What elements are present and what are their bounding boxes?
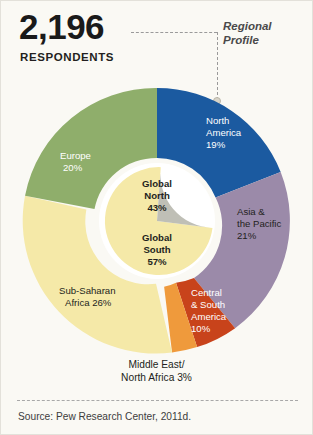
respondents-count: 2,196 [19, 9, 104, 44]
label-north-america-line2: America [206, 127, 242, 138]
label-global-north-line3: 43% [147, 202, 167, 213]
label-central-south-america-line3: America [191, 311, 227, 322]
label-asia-pacific-line3: 21% [237, 230, 257, 241]
callout-title-line2: Profile [223, 33, 272, 47]
label-middle-east-north-africa-line1: Middle East/ [1, 358, 312, 371]
label-europe-line1: Europe [60, 150, 91, 161]
label-sub-saharan-africa-line2: Africa 26% [65, 297, 112, 308]
label-north-america-line1: North [206, 115, 229, 126]
label-asia-pacific-line2: the Pacific [237, 218, 281, 229]
label-asia-pacific-line1: Asia & [237, 206, 265, 217]
label-global-south-line1: Global [142, 232, 172, 243]
label-middle-east-north-africa: Middle East/ North Africa 3% [1, 358, 312, 385]
label-europe-line2: 20% [63, 162, 83, 173]
callout-title: Regional Profile [223, 19, 272, 48]
infographic-panel: 2,196 RESPONDENTS Regional Profile [0, 0, 313, 435]
callout-leader-line-horizontal [131, 32, 217, 33]
donut-chart-svg: North America 19% Asia & the Pacific 21%… [11, 85, 304, 357]
label-north-america-line3: 19% [206, 139, 226, 150]
source-note: Source: Pew Research Center, 2011d. [18, 411, 191, 422]
label-global-north-line1: Global [142, 178, 172, 189]
label-sub-saharan-africa-line1: Sub-Saharan [59, 285, 116, 296]
callout-title-line1: Regional [223, 19, 272, 33]
label-central-south-america-line1: Central [191, 287, 222, 298]
label-central-south-america-line4: 10% [191, 323, 211, 334]
label-central-south-america-line2: & South [191, 299, 225, 310]
respondents-label: RESPONDENTS [20, 51, 114, 63]
footer-divider [17, 400, 298, 401]
label-global-south-line2: South [143, 244, 170, 255]
label-middle-east-north-africa-line2: North Africa 3% [1, 371, 312, 384]
label-global-south-line3: 57% [147, 256, 167, 267]
label-global-north-line2: North [144, 190, 170, 201]
regional-profile-donut-chart: North America 19% Asia & the Pacific 21%… [11, 85, 304, 357]
